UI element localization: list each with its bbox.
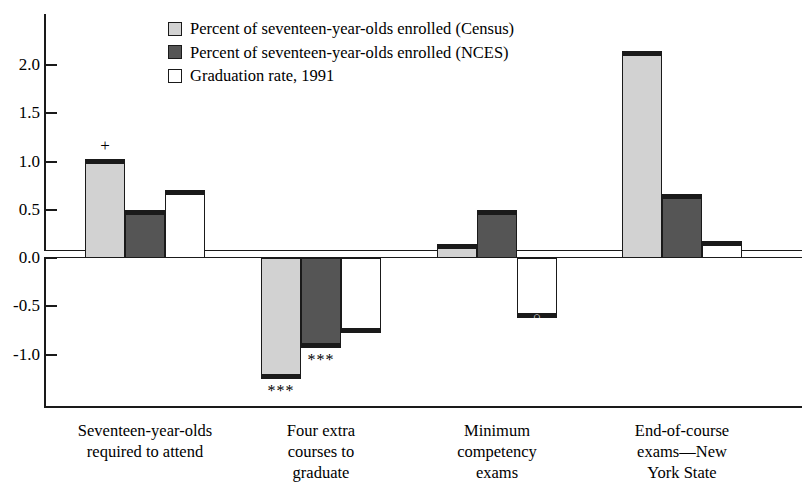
significance-marker-group2-series2: ***	[301, 351, 341, 368]
bar-group2-series3[interactable]	[341, 258, 381, 333]
bar-group4-series2[interactable]	[662, 194, 702, 258]
bar-cap-group4-series1	[622, 51, 662, 56]
bar-group4-series1[interactable]	[622, 51, 662, 258]
bar-cap-group4-series3	[702, 241, 742, 246]
bar-group3-series2[interactable]	[477, 210, 517, 258]
significance-marker-group2-series1: ***	[261, 382, 301, 399]
bar-group2-series1[interactable]	[261, 258, 301, 379]
legend-item-3[interactable]: Graduation rate, 1991	[168, 64, 514, 88]
bar-group1-series1[interactable]	[85, 159, 125, 258]
category-label-1: Seventeen-year-olds required to attend	[50, 420, 240, 462]
x-axis-line	[44, 406, 802, 408]
category-label-3: Minimum competency exams	[402, 420, 592, 483]
y-tick--0.5	[46, 305, 57, 307]
bar-cap-group2-series3	[341, 328, 381, 333]
bar-cap-group2-series2	[301, 343, 341, 348]
significance-marker-group3-series3: ○	[517, 311, 557, 322]
legend-item-1[interactable]: Percent of seventeen-year-olds enrolled …	[168, 17, 514, 41]
y-tick-0.5	[46, 209, 57, 211]
y-tick-1.5	[46, 112, 57, 114]
legend-label-2: Percent of seventeen-year-olds enrolled …	[190, 41, 509, 65]
category-label-4: End-of-course exams—New York State	[587, 420, 777, 483]
bar-cap-group1-series2	[125, 210, 165, 215]
legend-swatch-dark	[168, 45, 182, 59]
y-tick-label--1.0: -1.0	[0, 346, 40, 363]
y-tick-1.0	[46, 161, 57, 163]
category-label-2: Four extra courses to graduate	[226, 420, 416, 483]
legend-label-1: Percent of seventeen-year-olds enrolled …	[190, 17, 514, 41]
bar-cap-group4-series2	[662, 194, 702, 199]
bar-group1-series3[interactable]	[165, 190, 205, 258]
legend-label-3: Graduation rate, 1991	[190, 64, 334, 88]
legend-item-2[interactable]: Percent of seventeen-year-olds enrolled …	[168, 41, 514, 65]
chart-legend: Percent of seventeen-year-olds enrolled …	[168, 17, 514, 88]
bar-cap-group1-series1	[85, 159, 125, 164]
bar-cap-group1-series3	[165, 190, 205, 195]
bar-cap-group2-series1	[261, 374, 301, 379]
bar-group1-series2[interactable]	[125, 210, 165, 258]
legend-swatch-white	[168, 69, 182, 83]
legend-swatch-light	[168, 22, 182, 36]
bar-group2-series2[interactable]	[301, 258, 341, 348]
bar-cap-group3-series1	[437, 244, 477, 249]
y-tick--1.0	[46, 354, 57, 356]
y-tick-label-1.5: 1.5	[0, 104, 40, 121]
y-tick-label-2.0: 2.0	[0, 56, 40, 73]
bar-cap-group3-series2	[477, 210, 517, 215]
y-tick-label-0.0: 0.0	[0, 249, 40, 266]
y-axis-line	[44, 14, 46, 408]
y-tick-2.0	[46, 64, 57, 66]
y-tick-label--0.5: -0.5	[0, 297, 40, 314]
chart-figure: +******○ 2.01.51.00.50.0-0.5-1.0 Percent…	[0, 0, 805, 493]
significance-marker-group1-series1: +	[85, 137, 125, 154]
y-tick-label-1.0: 1.0	[0, 153, 40, 170]
y-tick-label-0.5: 0.5	[0, 201, 40, 218]
